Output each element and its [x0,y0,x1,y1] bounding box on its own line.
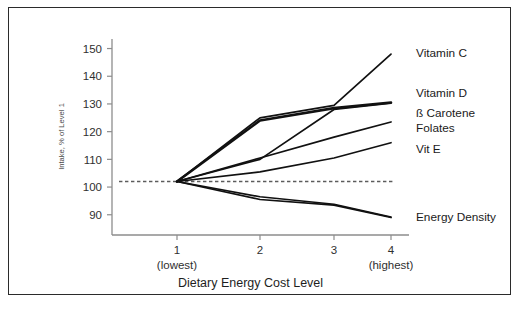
x-tick-label: 2 [257,244,263,256]
series-label-beta-carotene: ß Carotene [416,106,475,120]
y-tick-label: 120 [83,126,102,138]
line-chart: 15014013012011010090 1(lowest)234(highes… [9,8,510,294]
x-tick-sublabel: (lowest) [157,259,197,271]
series-label-vitamin-d: Vitamin D [416,86,467,100]
series-line-beta-carotene [177,103,391,181]
x-tick-label: 3 [331,244,337,256]
figure-frame: 15014013012011010090 1(lowest)234(highes… [8,7,511,295]
x-axis-title: Dietary Energy Cost Level [178,276,323,290]
series-line-vit-e [177,143,391,182]
y-tick-label: 150 [83,43,102,55]
y-axis: 15014013012011010090 [83,39,112,235]
y-tick-label: 130 [83,98,102,110]
series-label-folates: Folates [416,121,455,135]
series-label-vitamin-c: Vitamin C [416,46,467,60]
series-line-energy-density-second [177,182,391,217]
series-label-vit-e: Vit E [416,142,441,156]
x-tick-sublabel: (highest) [369,259,414,271]
x-axis: 1(lowest)234(highest) [112,235,414,271]
y-tick-label: 100 [83,181,102,193]
y-axis-title: Intake, % of Level 1 [57,103,66,170]
y-tick-label: 90 [89,209,102,221]
series-lines [177,54,391,217]
y-tick-label: 140 [83,70,102,82]
series-labels: Vitamin CVitamin Dß CaroteneFolatesVit E… [416,46,496,223]
x-tick-label: 4 [388,244,395,256]
series-label-energy-density: Energy Density [416,210,496,224]
y-tick-label: 110 [84,154,102,166]
x-tick-label: 1 [174,244,180,256]
